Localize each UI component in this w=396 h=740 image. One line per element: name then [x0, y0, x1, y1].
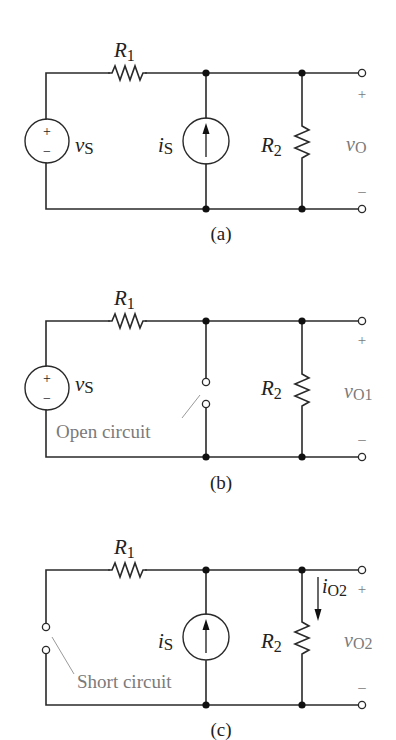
node-dot — [202, 317, 209, 324]
node-dot — [202, 701, 209, 708]
wire-top-left — [46, 73, 109, 119]
wire-top-left — [46, 570, 109, 625]
vs-minus: − — [43, 144, 51, 159]
r1-resistor — [109, 563, 146, 577]
r1-label: R1 — [113, 535, 135, 561]
short-terminal-icon — [42, 623, 49, 630]
panel-b: + − vS Open circuit R2 R1 + – vO1 (b) — [25, 286, 372, 494]
caption-c: (c) — [210, 719, 231, 740]
io-label: iO2 — [322, 575, 347, 599]
leader-line — [182, 395, 200, 418]
node-dot — [298, 701, 305, 708]
node-dot — [202, 205, 209, 212]
caption-b: (b) — [210, 472, 232, 494]
wire-top-left — [46, 321, 109, 366]
node-dot — [202, 69, 209, 76]
open-terminal-icon — [202, 400, 209, 407]
r1-label: R1 — [113, 286, 135, 312]
r2-label: R2 — [260, 629, 282, 655]
r2-resistor — [295, 321, 309, 457]
r1-resistor — [109, 66, 146, 80]
vs-label: vS — [75, 133, 94, 158]
r2-resistor — [295, 570, 309, 705]
panel-c: Short circuit iS R2 R1 iO2 + – vO2 (c) — [42, 535, 372, 740]
open-circuit-note: Open circuit — [56, 421, 151, 442]
panel-a: + − vS iS R2 R1 + – vO (a) — [25, 38, 366, 245]
leader-line — [52, 637, 74, 674]
output-terminal-plus — [358, 317, 365, 324]
r1-label: R1 — [113, 38, 135, 64]
short-terminal-icon — [42, 646, 49, 653]
node-dot — [202, 566, 209, 573]
circuit-figure: + − vS iS R2 R1 + – vO (a) + − vS — [0, 0, 396, 740]
r2-label: R2 — [260, 133, 282, 159]
out-plus: + — [358, 332, 366, 348]
out-label: vO1 — [344, 380, 372, 403]
r1-resistor — [109, 314, 146, 328]
out-plus: + — [358, 86, 366, 102]
node-dot — [298, 205, 305, 212]
caption-a: (a) — [210, 223, 231, 245]
out-minus: – — [357, 431, 366, 447]
vs-label: vS — [75, 372, 94, 397]
is-label: iS — [158, 133, 173, 158]
node-dot — [298, 69, 305, 76]
vs-plus: + — [43, 124, 51, 139]
vs-minus: − — [43, 391, 51, 406]
node-dot — [202, 453, 209, 460]
output-terminal-plus — [358, 69, 365, 76]
out-plus: + — [358, 581, 366, 597]
output-terminal-minus — [358, 453, 365, 460]
is-label: iS — [158, 629, 173, 654]
out-label: vO2 — [344, 629, 372, 652]
r2-resistor — [295, 73, 309, 209]
node-dot — [298, 453, 305, 460]
output-terminal-plus — [358, 566, 365, 573]
output-terminal-minus — [358, 205, 365, 212]
node-dot — [298, 566, 305, 573]
out-minus: – — [357, 183, 366, 199]
short-circuit-note: Short circuit — [77, 671, 172, 692]
node-dot — [298, 317, 305, 324]
output-terminal-minus — [358, 701, 365, 708]
out-label: vO — [346, 133, 366, 156]
r2-label: R2 — [260, 376, 282, 402]
vs-plus: + — [43, 371, 51, 386]
open-terminal-icon — [202, 378, 209, 385]
out-minus: – — [357, 679, 366, 695]
wire-bottom — [46, 163, 358, 209]
